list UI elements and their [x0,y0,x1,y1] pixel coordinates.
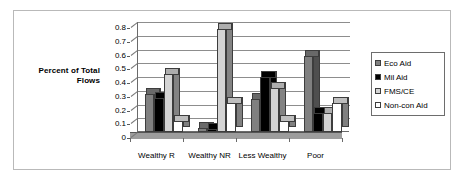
legend-swatch-icon [375,74,381,80]
plot-area: 00.10.20.30.40.50.60.70.8 Wealthy RWealt… [106,22,352,144]
legend-item[interactable]: Mil Aid [375,70,441,84]
x-axis-category-label: Wealthy R [130,151,183,160]
bar-front-face [251,99,261,132]
legend-item[interactable]: Eco Aid [375,56,441,70]
bars-layer [106,22,352,144]
bar-front-face [198,128,208,132]
bar-front-face [304,56,314,132]
bar-front-face [217,29,227,132]
bar-front-face [260,77,270,132]
bar-front-face [313,113,323,132]
x-axis-tick-mark [342,138,343,142]
legend-item-label: Eco Aid [384,59,411,68]
y-axis-title-line-2: Flows [16,76,100,86]
x-axis-category-label: Wealthy NR [183,151,236,160]
legend-swatch-icon [375,88,381,94]
x-axis-tick-mark [289,138,290,142]
y-axis-title: Percent of Total Flows [16,66,100,86]
legend-swatch-icon [375,102,381,108]
bar-front-face [207,129,217,132]
bar-front-face [226,103,236,132]
legend-item-label: FMS/CE [384,87,414,96]
bar-front-face [323,113,333,132]
bar [279,115,296,132]
legend-item-label: Non-con Aid [384,101,428,110]
bar-front-face [279,121,289,132]
y-axis-title-line-1: Percent of Total [16,66,100,76]
x-axis-category-label: Poor [289,151,342,160]
bar-front-face [270,88,280,132]
legend-item[interactable]: Non-con Aid [375,98,441,112]
bar-front-face [154,98,164,132]
bar [332,97,349,132]
legend-item-label: Mil Aid [384,73,408,82]
x-axis-category-label: Less Wealthy [236,151,289,160]
bar-front-face [173,121,183,132]
bar [226,97,243,132]
x-axis-tick-mark [236,138,237,142]
x-axis-tick-mark [130,138,131,142]
bar-front-face [145,94,155,133]
chart-legend: Eco AidMil AidFMS/CENon-con Aid [371,52,445,116]
x-axis-tick-mark [183,138,184,142]
bar [173,115,190,132]
bar-front-face [164,74,174,132]
legend-swatch-icon [375,60,381,66]
bar-front-face [332,103,342,132]
chart-figure: Percent of Total Flows 00.10.20.30.40.50… [0,0,465,184]
legend-item[interactable]: FMS/CE [375,84,441,98]
